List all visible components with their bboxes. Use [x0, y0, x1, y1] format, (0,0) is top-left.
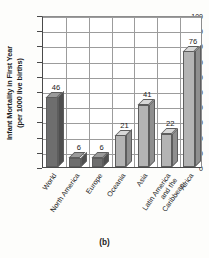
bar — [138, 105, 149, 167]
figure-caption: (b) — [0, 238, 209, 247]
bar-front-face — [46, 97, 57, 167]
bar — [115, 135, 126, 167]
bar-front-face — [138, 105, 149, 167]
plot-area — [42, 16, 202, 168]
y-axis-tick-mark — [37, 168, 42, 169]
x-axis-label-line: World — [41, 172, 59, 192]
x-axis-category-label: Asia — [135, 172, 150, 188]
bar-side-face — [58, 92, 64, 167]
y-axis-title-line-1: Infant Mortality in First Year — [5, 46, 15, 140]
bar-side-face — [126, 130, 132, 167]
gridline-vertical — [157, 17, 158, 167]
bar — [69, 158, 80, 167]
bar-front-face — [69, 158, 80, 167]
x-axis-category-label: Europe — [84, 172, 104, 196]
bar-front-face — [161, 134, 172, 167]
x-axis-label-line: Europe — [84, 172, 104, 196]
y-axis-title: Infant Mortality in First Year (per 1000… — [0, 18, 28, 168]
x-axis-label-line: Africa — [179, 172, 196, 192]
bar — [183, 51, 194, 167]
bar-value-label: 6 — [77, 143, 81, 152]
bar-value-label: 41 — [143, 90, 151, 99]
x-axis-label-line: Asia — [135, 172, 150, 188]
gridline-vertical — [89, 17, 90, 167]
bar-front-face — [183, 51, 194, 167]
bar-side-face — [172, 128, 178, 167]
x-axis-category-label: Oceania — [105, 172, 127, 199]
bar-front-face — [92, 158, 103, 167]
gridline-vertical — [112, 17, 113, 167]
bar-value-label: 6 — [99, 143, 103, 152]
gridline-vertical — [134, 17, 135, 167]
gridline-vertical — [180, 17, 181, 167]
y-axis-title-line-2: (per 1000 live births) — [14, 46, 24, 140]
bar-value-label: 22 — [166, 119, 174, 128]
bar-front-face — [115, 135, 126, 167]
bar-value-label: 21 — [120, 121, 128, 130]
bar-side-face — [149, 99, 155, 167]
x-axis-category-label: Latin Americaand theCaribbean — [141, 172, 187, 222]
bar — [161, 134, 172, 167]
bar-side-face — [195, 46, 201, 167]
x-axis-category-label: World — [41, 172, 59, 192]
x-axis-label-line: Oceania — [105, 172, 127, 199]
gridline-vertical — [66, 17, 67, 167]
bar-value-label: 76 — [189, 37, 197, 46]
bar-value-label: 46 — [52, 83, 60, 92]
chart-figure: Infant Mortality in First Year (per 1000… — [0, 0, 209, 258]
bar — [46, 97, 57, 167]
bar — [92, 158, 103, 167]
x-axis-category-label: Africa — [179, 172, 196, 192]
